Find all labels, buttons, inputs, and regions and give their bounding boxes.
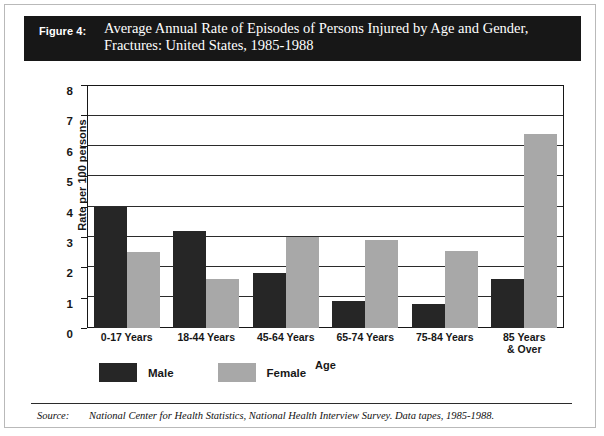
bar-groups — [87, 85, 564, 328]
bar-group — [246, 85, 326, 328]
y-tick-mark-0 — [81, 328, 87, 329]
chart-legend: MaleFemale — [99, 363, 350, 382]
bar-male — [412, 304, 445, 328]
x-tick-label: 75-84 Years — [405, 331, 485, 355]
x-tick-label-line: 0-17 Years — [87, 331, 167, 343]
x-tick-label: 18-44 Years — [167, 331, 247, 355]
source-note: Source:National Center for Health Statis… — [37, 410, 577, 421]
x-tick-label-line: 65-74 Years — [326, 331, 406, 343]
legend-item-male: Male — [99, 363, 174, 382]
x-tick-label-line: 75-84 Years — [405, 331, 485, 343]
legend-label-female: Female — [267, 367, 307, 379]
figure-number-label: Figure 4: — [39, 25, 86, 37]
bar-group — [405, 85, 485, 328]
bar-female — [127, 252, 160, 328]
legend-label-male: Male — [148, 367, 174, 379]
source-text: National Center for Health Statistics, N… — [89, 410, 494, 421]
legend-swatch-male — [99, 363, 137, 382]
source-label: Source: — [37, 410, 89, 421]
bar-male — [332, 301, 365, 328]
bar-male — [94, 207, 127, 329]
figure-title-banner: Figure 4: Average Annual Rate of Episode… — [24, 16, 581, 61]
bar-group — [326, 85, 406, 328]
x-tick-label: 85 Years& Over — [485, 331, 565, 355]
bar-female — [286, 237, 319, 328]
x-tick-label-line: 45-64 Years — [246, 331, 326, 343]
y-axis-tick-labels: 012345678 — [24, 85, 81, 328]
bar-male — [173, 231, 206, 328]
bar-female — [524, 134, 557, 328]
x-tick-label-line: 85 Years — [485, 331, 565, 343]
x-tick-label: 0-17 Years — [87, 331, 167, 355]
figure-container: Figure 4: Average Annual Rate of Episode… — [4, 4, 596, 428]
bar-group — [167, 85, 247, 328]
x-tick-label-line: 18-44 Years — [167, 331, 247, 343]
page-title: Average Annual Rate of Episodes of Perso… — [104, 20, 574, 54]
figure-title-line-1: Average Annual Rate of Episodes of Perso… — [104, 20, 574, 37]
x-tick-label: 65-74 Years — [326, 331, 406, 355]
figure-title-line-2: Fractures: United States, 1985-1988 — [104, 37, 574, 54]
bar-male — [491, 279, 524, 328]
x-axis-tick-labels: 0-17 Years18-44 Years45-64 Years65-74 Ye… — [87, 331, 564, 355]
bar-female — [365, 240, 398, 328]
bar-chart: Rate per 100 persons 012345678 0-17 Year… — [24, 73, 581, 373]
bar-male — [253, 273, 286, 328]
bar-group — [87, 85, 167, 328]
source-divider — [31, 403, 572, 404]
bar-group — [485, 85, 565, 328]
x-tick-label: 45-64 Years — [246, 331, 326, 355]
legend-swatch-female — [218, 363, 256, 382]
legend-item-female: Female — [218, 363, 307, 382]
bar-female — [445, 251, 478, 328]
bar-female — [206, 279, 239, 328]
x-tick-label-line: & Over — [485, 343, 565, 355]
